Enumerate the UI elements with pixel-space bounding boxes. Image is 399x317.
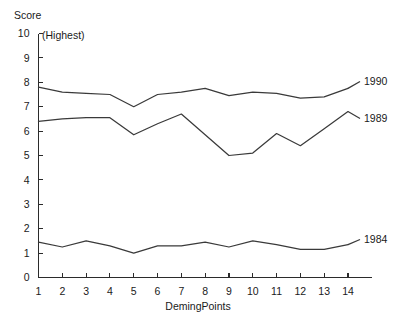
x-tick-label: 10: [247, 285, 259, 297]
series-label-1990: 1990: [364, 75, 388, 87]
y-tick-label: 8: [24, 76, 30, 88]
x-tick-label: 4: [107, 285, 113, 297]
series-label-1989: 1989: [364, 112, 388, 124]
x-tick-label: 2: [59, 285, 65, 297]
y-axis-tick-marks: [39, 34, 44, 254]
series-leader-lines: [348, 82, 360, 245]
y-tick-label: 1: [24, 247, 30, 259]
x-tick-label: 1: [36, 285, 42, 297]
y-tick-label: 2: [24, 222, 30, 234]
leader-line-1990: [348, 82, 360, 89]
y-tick-label: 3: [24, 198, 30, 210]
x-tick-label: 7: [178, 285, 184, 297]
series-line-1989: [39, 112, 349, 156]
x-tick-label: 14: [342, 285, 354, 297]
leader-line-1989: [348, 112, 360, 119]
series-label-1984: 1984: [364, 233, 388, 245]
highest-note-label: (Highest): [42, 29, 85, 41]
y-tick-label: 4: [24, 174, 30, 186]
line-chart: Score (Highest) 012345678910 12345678910…: [0, 0, 399, 317]
x-tick-label: 6: [155, 285, 161, 297]
series-lines: [39, 87, 349, 253]
x-tick-label: 13: [318, 285, 330, 297]
y-tick-label: 7: [24, 100, 30, 112]
x-tick-label: 11: [271, 285, 282, 297]
x-axis-tick-labels: 1234567891011121314: [36, 285, 354, 297]
y-tick-label: 10: [18, 27, 30, 39]
y-tick-label: 0: [24, 271, 30, 283]
chart-canvas: Score (Highest) 012345678910 12345678910…: [0, 0, 399, 317]
y-axis-tick-labels: 012345678910: [18, 27, 30, 283]
x-tick-label: 5: [131, 285, 137, 297]
x-tick-label: 9: [226, 285, 232, 297]
x-tick-label: 12: [295, 285, 307, 297]
x-axis-title: DemingPoints: [165, 300, 230, 312]
y-axis-title: Score: [14, 9, 42, 21]
x-tick-label: 8: [202, 285, 208, 297]
series-line-1990: [39, 87, 349, 107]
series-line-1984: [39, 241, 349, 253]
leader-line-1984: [348, 240, 360, 245]
y-tick-label: 5: [24, 149, 30, 161]
x-tick-label: 3: [83, 285, 89, 297]
y-tick-label: 6: [24, 125, 30, 137]
x-axis-tick-marks: [39, 273, 349, 278]
y-tick-label: 9: [24, 52, 30, 64]
